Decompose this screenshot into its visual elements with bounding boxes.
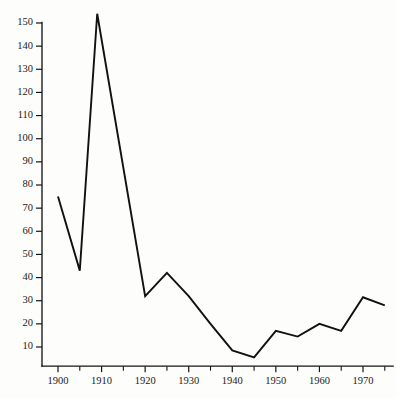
x-tick-label-1910: 1910 xyxy=(91,375,112,386)
y-tick-label-120: 120 xyxy=(17,86,33,97)
y-tick-label-100: 100 xyxy=(17,132,33,143)
x-tick-label-1930: 1930 xyxy=(178,375,199,386)
y-tick-label-70: 70 xyxy=(23,202,34,213)
y-tick-label-10: 10 xyxy=(23,340,34,351)
y-tick-label-130: 130 xyxy=(17,63,33,74)
y-tick-label-80: 80 xyxy=(23,178,34,189)
y-tick-label-90: 90 xyxy=(23,155,34,166)
y-tick-label-20: 20 xyxy=(23,317,34,328)
y-tick-label-30: 30 xyxy=(23,294,34,305)
x-tick-label-1950: 1950 xyxy=(265,375,286,386)
x-tick-label-1920: 1920 xyxy=(135,375,156,386)
x-tick-label-1900: 1900 xyxy=(48,375,69,386)
y-tick-label-40: 40 xyxy=(23,271,34,282)
y-tick-label-110: 110 xyxy=(18,109,33,120)
y-tick-label-60: 60 xyxy=(23,225,34,236)
data-series-line xyxy=(58,14,385,358)
y-axis-ticks xyxy=(36,23,42,347)
x-axis-tick-labels: 19001910192019301940195019601970 xyxy=(48,375,374,386)
y-tick-label-50: 50 xyxy=(23,248,34,259)
x-tick-label-1940: 1940 xyxy=(222,375,243,386)
x-tick-label-1960: 1960 xyxy=(309,375,330,386)
y-tick-label-140: 140 xyxy=(17,40,33,51)
y-axis-tick-labels: 102030405060708090100110120130140150 xyxy=(17,16,33,351)
line-chart: 102030405060708090100110120130140150 190… xyxy=(0,0,396,398)
chart-container: 102030405060708090100110120130140150 190… xyxy=(0,0,396,398)
x-tick-label-1970: 1970 xyxy=(353,375,374,386)
y-tick-label-150: 150 xyxy=(17,16,33,27)
